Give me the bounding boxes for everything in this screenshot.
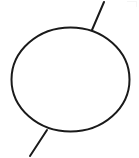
figure-canvas: Ellipse with two tangential line segment… — [0, 0, 139, 158]
ellipse-diagram: Ellipse with two tangential line segment… — [0, 0, 139, 158]
figure-background — [0, 0, 139, 158]
